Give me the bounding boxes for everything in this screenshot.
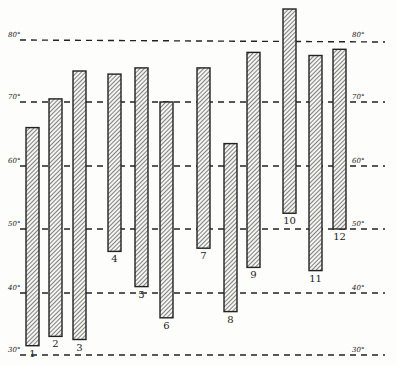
bar-10 — [283, 9, 296, 213]
chart-canvas: 30°30°40°40°50°50°60°60°70°70°80°80°1234… — [0, 0, 397, 365]
bar-label-10: 10 — [283, 215, 296, 226]
bar-5 — [135, 68, 148, 287]
y-tick-right-60: 60° — [352, 157, 364, 165]
bar-9 — [247, 52, 260, 267]
bar-3 — [73, 71, 86, 340]
y-tick-right-50: 50° — [352, 220, 364, 228]
y-tick-right-70: 70° — [352, 93, 364, 101]
y-tick-left-40: 40° — [7, 284, 20, 292]
bar-label-9: 9 — [250, 269, 256, 280]
bar-11 — [309, 56, 322, 271]
y-tick-right-80: 80° — [352, 31, 364, 39]
y-tick-left-50: 50° — [8, 220, 20, 228]
bar-label-1: 1 — [29, 348, 35, 359]
bar-label-12: 12 — [333, 231, 346, 242]
bar-label-6: 6 — [163, 320, 169, 331]
bar-label-5: 5 — [138, 289, 144, 300]
bar-7 — [197, 68, 210, 248]
bar-1 — [26, 128, 39, 346]
y-tick-left-70: 70° — [8, 93, 20, 101]
bar-label-11: 11 — [309, 273, 322, 284]
range-bar-chart: 30°30°40°40°50°50°60°60°70°70°80°80°1234… — [0, 0, 397, 365]
bars — [26, 9, 346, 346]
bar-2 — [49, 99, 62, 337]
bar-8 — [224, 144, 237, 312]
y-tick-right-40: 40° — [351, 284, 364, 292]
bar-label-4: 4 — [111, 253, 117, 264]
gridline-80 — [20, 40, 385, 42]
bar-label-2: 2 — [52, 338, 58, 349]
bar-4 — [108, 74, 121, 251]
bar-label-7: 7 — [200, 250, 206, 261]
y-tick-right-30: 30° — [352, 346, 364, 354]
bar-6 — [160, 102, 173, 318]
y-tick-left-80: 80° — [8, 31, 20, 39]
bar-label-3: 3 — [76, 342, 82, 353]
y-tick-left-30: 30° — [8, 346, 20, 354]
bar-label-8: 8 — [227, 314, 233, 325]
bar-12 — [333, 49, 346, 229]
y-tick-left-60: 60° — [8, 157, 20, 165]
